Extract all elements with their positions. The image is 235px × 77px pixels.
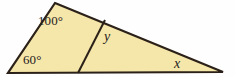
apex-angle-label: 100° [38, 14, 63, 27]
base-left-angle-label: 60° [23, 53, 42, 66]
base-right-angle-label-x: x [174, 57, 180, 71]
cevian-segment-label-y: y [104, 30, 110, 44]
geometry-figure: 100° 60° y x [0, 0, 235, 77]
